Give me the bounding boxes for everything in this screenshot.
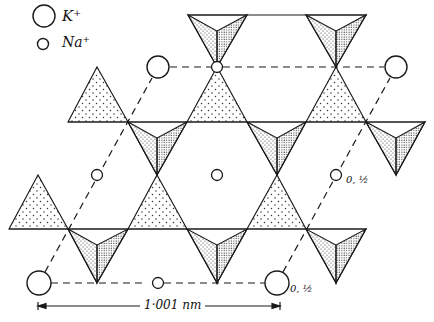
k-ion [265, 271, 289, 295]
k-ion [147, 56, 169, 78]
legend-na-label: Na⁺ [62, 34, 90, 50]
na-ion [212, 62, 223, 73]
na-ion [331, 170, 342, 181]
height-label-mid: 0, ½ [346, 174, 368, 185]
legend-na-symbol [38, 39, 49, 50]
na-ion [212, 170, 223, 181]
upward-tetrahedra [9, 67, 366, 229]
na-ion [92, 170, 103, 181]
k-ion [385, 56, 407, 78]
legend-symbols [33, 5, 55, 50]
downward-tetrahedra [68, 15, 425, 283]
legend-k-label: K⁺ [62, 7, 81, 25]
na-ion [153, 278, 164, 289]
k-ion [27, 271, 51, 295]
scale-bar-label: 1·001 nm [140, 298, 205, 312]
legend-k-symbol [33, 5, 55, 27]
height-label-bottom: 0, ½ [290, 283, 312, 294]
